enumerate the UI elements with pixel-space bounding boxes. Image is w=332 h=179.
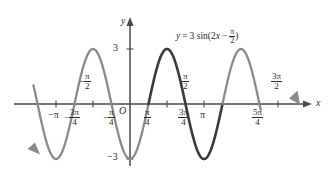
x-tick-numerator: 3π bbox=[271, 72, 282, 81]
x-tick-denominator: 4 bbox=[178, 117, 189, 127]
x-tick-fraction: π4 bbox=[144, 108, 151, 127]
x-tick-fraction: 3π4 bbox=[178, 108, 189, 127]
x-tick-denominator: 4 bbox=[108, 117, 115, 127]
x-tick-label-pi: π bbox=[200, 110, 205, 120]
x-tick-label-neg-pi: −π bbox=[48, 110, 59, 120]
x-tick-label-neg-pi-over-4: −π4 bbox=[103, 108, 115, 127]
equation-annotation: y=3 sin(2x−π2) bbox=[176, 28, 239, 45]
x-tick-numerator: π bbox=[84, 72, 91, 81]
curve-extension-right bbox=[222, 49, 300, 110]
x-tick-fraction: 5π4 bbox=[252, 108, 263, 127]
graph-canvas bbox=[0, 0, 332, 179]
x-tick-numerator: π bbox=[108, 108, 115, 117]
x-tick-denominator: 4 bbox=[69, 117, 80, 127]
x-tick-label-pi-over-4: π4 bbox=[144, 108, 151, 127]
equation-minus: − bbox=[222, 31, 227, 41]
x-tick-denominator: 2 bbox=[84, 81, 91, 91]
x-tick-denominator: 4 bbox=[144, 117, 151, 127]
y-tick-label-3: 3 bbox=[113, 43, 118, 53]
x-axis-label: x bbox=[316, 98, 320, 108]
x-tick-label-3pi-over-2: 3π2 bbox=[271, 72, 282, 91]
x-tick-denominator: 4 bbox=[252, 117, 263, 127]
x-axis bbox=[14, 100, 312, 107]
origin-label: O bbox=[119, 106, 126, 116]
x-tick-numerator: π bbox=[182, 72, 189, 81]
x-tick-numerator: π bbox=[144, 108, 151, 117]
x-tick-numerator: 3π bbox=[69, 108, 80, 117]
x-tick-fraction: π2 bbox=[84, 72, 91, 91]
x-tick-label-neg-3pi-over-4: −3π4 bbox=[64, 108, 80, 127]
y-axis bbox=[127, 17, 134, 166]
x-tick-label-neg-pi-over-2: −π2 bbox=[79, 72, 91, 91]
x-tick-fraction: 3π4 bbox=[69, 108, 80, 127]
sine-graph-figure: y=3 sin(2x−π2) y x O 3 −3 −π −3π4 −π4 π4… bbox=[0, 0, 332, 179]
x-tick-numerator: 3π bbox=[178, 108, 189, 117]
equation-func: sin(2 bbox=[197, 31, 216, 41]
x-tick-label-pi-over-2: π2 bbox=[182, 72, 189, 91]
equation-close-paren: ) bbox=[235, 31, 238, 41]
x-tick-denominator: 2 bbox=[271, 81, 282, 91]
x-tick-numerator: 5π bbox=[252, 108, 263, 117]
y-tick-label-neg3: −3 bbox=[107, 152, 118, 162]
y-axis-label: y bbox=[121, 16, 125, 26]
x-tick-fraction: 3π2 bbox=[271, 72, 282, 91]
equation-variable: x bbox=[216, 31, 220, 41]
equation-equals: = bbox=[182, 31, 187, 41]
x-tick-label-3pi-over-4: 3π4 bbox=[178, 108, 189, 127]
x-tick-fraction: π2 bbox=[182, 72, 189, 91]
x-tick-fraction: π4 bbox=[108, 108, 115, 127]
equation-amplitude: 3 bbox=[190, 31, 195, 41]
x-tick-label-5pi-over-4: 5π4 bbox=[252, 108, 263, 127]
x-tick-denominator: 2 bbox=[182, 81, 189, 91]
equation-lhs: y bbox=[176, 31, 180, 41]
